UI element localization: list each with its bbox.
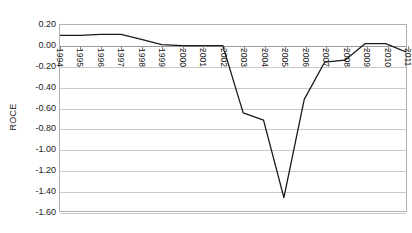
x-tick-label: 2002 bbox=[219, 48, 229, 67]
x-tick-label: 2010 bbox=[383, 48, 393, 67]
x-tick-label: 2009 bbox=[362, 48, 372, 67]
y-axis-title-label: ROCE bbox=[8, 103, 18, 130]
x-tick-label: 2005 bbox=[280, 48, 290, 67]
x-tick-label: 2001 bbox=[198, 48, 208, 67]
x-tick-label: 2000 bbox=[178, 48, 188, 67]
x-tick-label: 1998 bbox=[137, 48, 147, 67]
y-tick-label: -1.60 bbox=[35, 207, 56, 217]
y-tick-label: 0.00 bbox=[38, 40, 56, 50]
x-axis-tick-labels: 1994199519961997199819992000200120022003… bbox=[60, 25, 406, 211]
x-tick-label: 2007 bbox=[321, 48, 331, 67]
y-tick-label: -1.00 bbox=[35, 144, 56, 154]
x-tick-label: 2006 bbox=[301, 48, 311, 67]
x-tick-label: 1995 bbox=[75, 48, 85, 67]
y-tick-label: -0.80 bbox=[35, 123, 56, 133]
x-tick-label: 1996 bbox=[96, 48, 106, 67]
x-tick-label: 2003 bbox=[239, 48, 249, 67]
x-tick-label: 2004 bbox=[260, 48, 270, 67]
x-tick-label: 1994 bbox=[55, 48, 65, 67]
y-tick-label: -0.20 bbox=[35, 61, 56, 71]
x-tick-label: 1997 bbox=[116, 48, 126, 67]
y-tick-label: -1.20 bbox=[35, 165, 56, 175]
roce-line-chart: ROCE 0.200.00-0.20-0.40-0.60-0.80-1.00-1… bbox=[0, 0, 412, 233]
y-tick-label: -1.40 bbox=[35, 186, 56, 196]
gridline bbox=[60, 213, 406, 214]
plot-area: 1994199519961997199819992000200120022003… bbox=[59, 24, 407, 212]
y-tick-label: -0.40 bbox=[35, 82, 56, 92]
x-tick-label: 2011 bbox=[403, 48, 412, 66]
y-axis-tick-labels: 0.200.00-0.20-0.40-0.60-0.80-1.00-1.20-1… bbox=[20, 0, 56, 233]
x-tick-label: 2008 bbox=[342, 48, 352, 67]
x-tick-label: 1999 bbox=[157, 48, 167, 67]
y-tick-label: -0.60 bbox=[35, 103, 56, 113]
y-tick-label: 0.20 bbox=[38, 19, 56, 29]
